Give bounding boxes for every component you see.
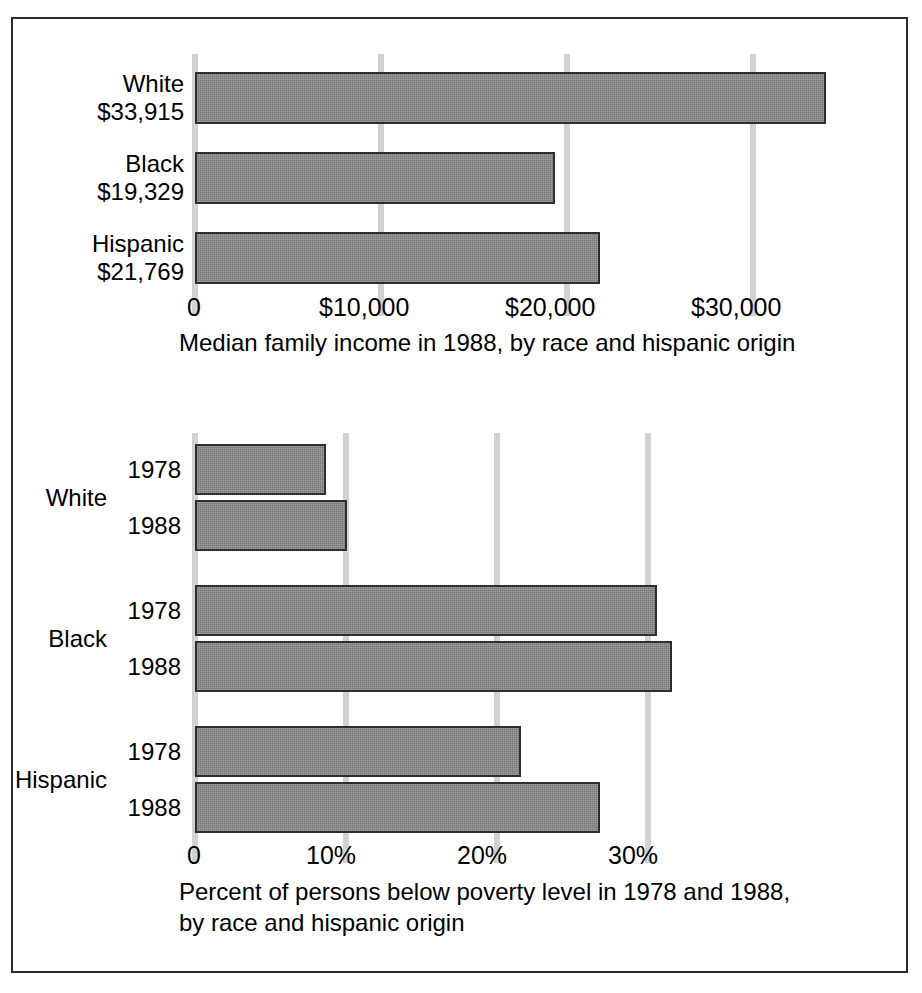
year-label-black-1978: 1978 — [13, 597, 181, 625]
bar-label-black: Black $19,329 — [13, 150, 184, 206]
bar-texture — [197, 234, 598, 282]
tick-label-10-percent: 10% — [306, 841, 356, 870]
bar-white-income — [195, 72, 826, 124]
year-label-hispanic-1978: 1978 — [13, 738, 181, 766]
bar-label-hispanic: Hispanic $21,769 — [13, 230, 184, 286]
caption-bottom-chart-line2: by race and hispanic origin — [179, 907, 465, 938]
year-label-hispanic-1988: 1988 — [13, 794, 181, 822]
bar-label-white-name: White — [13, 70, 184, 98]
tick-label-30-percent: 30% — [608, 841, 658, 870]
group-label-hispanic: Hispanic — [13, 766, 107, 794]
caption-bottom-chart-line1: Percent of persons below poverty level i… — [179, 876, 790, 907]
bar-texture — [197, 784, 598, 831]
bar-label-white-value: $33,915 — [13, 98, 184, 126]
year-label-white-1978: 1978 — [13, 456, 181, 484]
tick-label-0: 0 — [187, 293, 201, 322]
bar-label-white: White $33,915 — [13, 70, 184, 126]
chart-percent-below-poverty: 1978 1988 1978 1988 1978 1988 White Blac… — [13, 411, 910, 975]
bar-hispanic-1988 — [195, 782, 600, 833]
bar-label-black-name: Black — [13, 150, 184, 178]
bar-texture — [197, 74, 824, 122]
bar-black-1978 — [195, 585, 657, 636]
tick-label-30000: $30,000 — [691, 293, 781, 322]
tick-label-10000: $10,000 — [319, 293, 409, 322]
bar-label-black-value: $19,329 — [13, 178, 184, 206]
tick-label-20-percent: 20% — [457, 841, 507, 870]
bar-texture — [197, 728, 519, 775]
tick-label-0-percent: 0 — [187, 841, 201, 870]
bar-texture — [197, 154, 553, 202]
group-label-black: Black — [13, 625, 107, 653]
year-label-white-1988: 1988 — [13, 512, 181, 540]
bar-black-1988 — [195, 641, 672, 692]
tick-label-20000: $20,000 — [505, 293, 595, 322]
bar-white-1978 — [195, 444, 326, 495]
bar-texture — [197, 643, 670, 690]
year-label-black-1988: 1988 — [13, 653, 181, 681]
group-label-white: White — [13, 484, 107, 512]
bar-white-1988 — [195, 500, 347, 551]
bar-label-hispanic-name: Hispanic — [13, 230, 184, 258]
bar-texture — [197, 446, 324, 493]
figure-frame: White $33,915 Black $19,329 Hispanic $21… — [11, 17, 908, 973]
bar-texture — [197, 502, 345, 549]
bar-label-hispanic-value: $21,769 — [13, 258, 184, 286]
caption-top-chart: Median family income in 1988, by race an… — [179, 327, 795, 358]
chart-median-family-income: White $33,915 Black $19,329 Hispanic $21… — [13, 19, 910, 359]
bar-texture — [197, 587, 655, 634]
bar-black-income — [195, 152, 555, 204]
bar-hispanic-income — [195, 232, 600, 284]
bar-hispanic-1978 — [195, 726, 521, 777]
